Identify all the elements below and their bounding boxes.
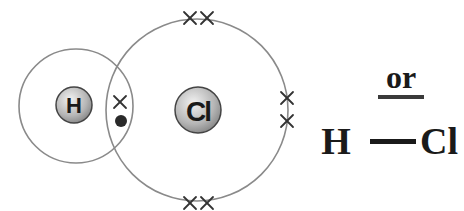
or-label: or: [386, 59, 416, 95]
shared-electron-dot: [115, 115, 127, 127]
lone-pair-bottom: [184, 197, 213, 209]
hydrogen-nucleus: H: [56, 87, 92, 123]
chlorine-nucleus: Cl: [175, 87, 221, 133]
formula-cl: Cl: [420, 120, 458, 162]
chlorine-symbol: Cl: [186, 96, 210, 127]
hydrogen-symbol: H: [66, 93, 82, 118]
hcl-dot-cross-diagram: H Cl or H Cl: [0, 0, 464, 211]
lone-pair-top: [184, 12, 213, 24]
lone-pair-right: [281, 92, 293, 127]
formula-h: H: [321, 120, 351, 162]
structural-formula: H Cl: [321, 120, 458, 162]
shared-electron-cross: [114, 96, 126, 108]
formula-bond: [370, 139, 416, 144]
or-underline: [378, 95, 424, 99]
